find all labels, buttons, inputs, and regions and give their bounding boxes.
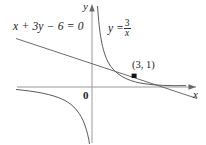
hyperbola-branch-quadrant-1 [98,6,187,86]
hyperbola-equation-label: y =3x [108,19,131,40]
line-equation-label: x + 3y − 6 = 0 [13,21,84,33]
y-axis-label: y [83,1,88,12]
hyperbola-branch-quadrant-3 [16,90,90,145]
line-x-plus-3y-minus-6 [16,39,197,99]
fraction-numerator: 3 [124,19,131,29]
origin-label: 0 [83,90,89,101]
intersection-point-marker [132,74,137,78]
y-axis [89,4,94,143]
fraction-three-over-x: 3x [124,19,131,40]
hyperbola-equation-lhs: y = [108,22,124,34]
point-label: (3, 1) [132,60,155,71]
fraction-denominator: x [124,28,131,39]
x-axis-label: x [193,89,198,100]
graph-figure: x + 3y − 6 = 0 y =3x (3, 1) y x 0 [0,0,206,144]
